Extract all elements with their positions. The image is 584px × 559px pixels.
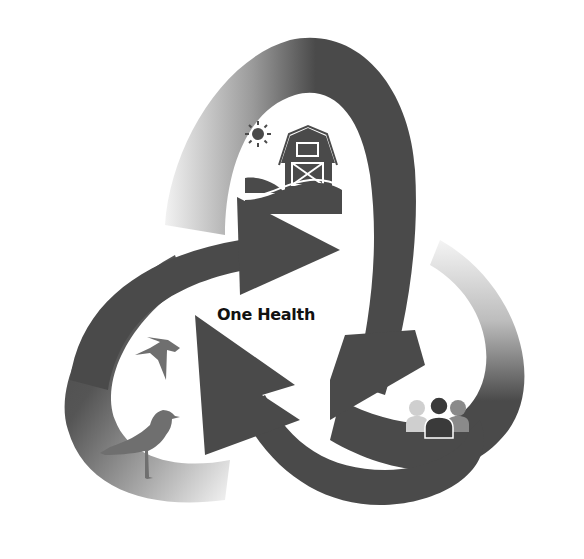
barn-sun-hills-icon [245, 121, 342, 214]
one-health-diagram [0, 0, 584, 559]
swallow-icon [135, 337, 180, 380]
diagram-title: One Health [217, 305, 315, 324]
person-center-icon [425, 397, 453, 438]
people-group-icon [406, 397, 469, 438]
